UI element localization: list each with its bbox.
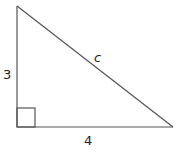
hypotenuse-label: c [94,50,101,65]
vertical-leg-label: 3 [3,67,11,82]
right-triangle-diagram: 3 4 c [0,0,184,155]
hypotenuse [17,6,173,127]
right-angle-marker [17,108,35,127]
horizontal-leg-label: 4 [84,133,92,148]
